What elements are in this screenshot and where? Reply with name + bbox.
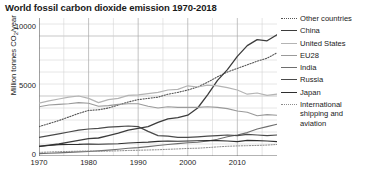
series-line (39, 126, 277, 137)
legend-item-label: China (300, 26, 320, 35)
legend-swatch-line-icon (281, 26, 297, 35)
legend-swatch-line-icon (281, 100, 297, 109)
legend-item[interactable]: United States (281, 39, 369, 48)
legend-item[interactable]: International shipping and aviation (281, 100, 369, 128)
chart-figure: World fossil carbon dioxide emission 197… (0, 0, 369, 179)
legend-item-label: Other countries (300, 14, 352, 23)
series-line (39, 85, 277, 103)
legend-swatch-line-icon (281, 51, 297, 60)
legend-swatch-line-icon (281, 39, 297, 48)
legend-swatch-line-icon (281, 88, 297, 97)
legend-item[interactable]: Other countries (281, 14, 369, 23)
legend-item[interactable]: Japan (281, 88, 369, 97)
legend-item-label: United States (300, 39, 346, 48)
x-tick-label: 1990 (130, 158, 147, 167)
legend-item[interactable]: China (281, 26, 369, 35)
legend-item-label: Japan (300, 88, 321, 97)
y-tick-label: 10000 (15, 22, 36, 31)
legend-item-label: EU28 (300, 51, 319, 60)
y-axis-ticks: 10000 5000 0 (0, 0, 36, 179)
x-axis-ticks: 1970 1980 1990 2000 2010 (39, 158, 277, 172)
page-title: World fossil carbon dioxide emission 197… (5, 2, 217, 13)
legend-item-label: India (300, 63, 316, 72)
y-tick-label: 5000 (19, 81, 36, 90)
series-line (39, 35, 277, 147)
x-tick-label: 2000 (179, 158, 196, 167)
legend-swatch-line-icon (281, 14, 297, 23)
legend-item-label: Russia (300, 75, 323, 84)
x-tick-label: 1970 (31, 158, 48, 167)
plot-area (39, 18, 277, 156)
legend-item-label: International shipping and aviation (300, 100, 369, 128)
legend-item[interactable]: EU28 (281, 51, 369, 60)
series-line (39, 53, 277, 127)
legend-swatch-line-icon (281, 63, 297, 72)
legend-item[interactable]: Russia (281, 75, 369, 84)
chart-canvas (39, 18, 277, 156)
series-line (39, 103, 277, 116)
series-line (39, 124, 277, 153)
x-tick-label: 1980 (80, 158, 97, 167)
legend-swatch-line-icon (281, 75, 297, 84)
legend-item[interactable]: India (281, 63, 369, 72)
chart-legend: Other countriesChinaUnited StatesEU28Ind… (281, 14, 369, 131)
x-tick-label: 2010 (229, 158, 246, 167)
